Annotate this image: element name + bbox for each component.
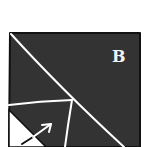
- fold-diagram: B: [0, 0, 152, 147]
- region-label-b: B: [112, 47, 126, 66]
